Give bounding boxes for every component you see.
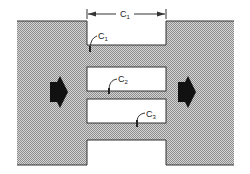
flow-channel-diagram: C1 C1 C2 C3 (0, 0, 250, 174)
dimension-line-c1: C1 (87, 9, 166, 20)
svg-text:C1: C1 (98, 31, 109, 42)
dimension-label: C1 (120, 9, 131, 20)
channel-body (17, 21, 234, 165)
